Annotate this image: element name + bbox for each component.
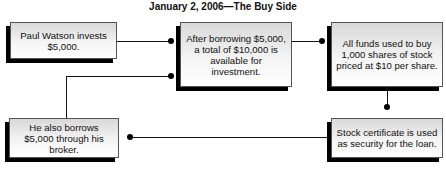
connector-dot bbox=[384, 104, 390, 110]
connector-certificate-borrow bbox=[130, 137, 327, 138]
node-certificate: Stock certificate is used as security fo… bbox=[331, 118, 443, 158]
connector-dot bbox=[168, 73, 174, 79]
connector-dot bbox=[127, 134, 133, 140]
connector-dot bbox=[168, 38, 174, 44]
connector-dot bbox=[319, 38, 325, 44]
connector-invest-total bbox=[117, 41, 172, 42]
node-borrow: He also borrows $5,000 through his broke… bbox=[9, 118, 119, 158]
diagram-title: January 2, 2006—The Buy Side bbox=[0, 1, 446, 12]
node-total-available: After borrowing $5,000, a total of $10,0… bbox=[180, 22, 292, 87]
node-invest: Paul Watson invests $5,000. bbox=[10, 22, 117, 59]
node-buy-shares: All funds used to buy 1,000 shares of st… bbox=[331, 22, 443, 87]
connector-borrow-total bbox=[66, 76, 172, 77]
connector-borrow-vertical bbox=[66, 76, 67, 118]
